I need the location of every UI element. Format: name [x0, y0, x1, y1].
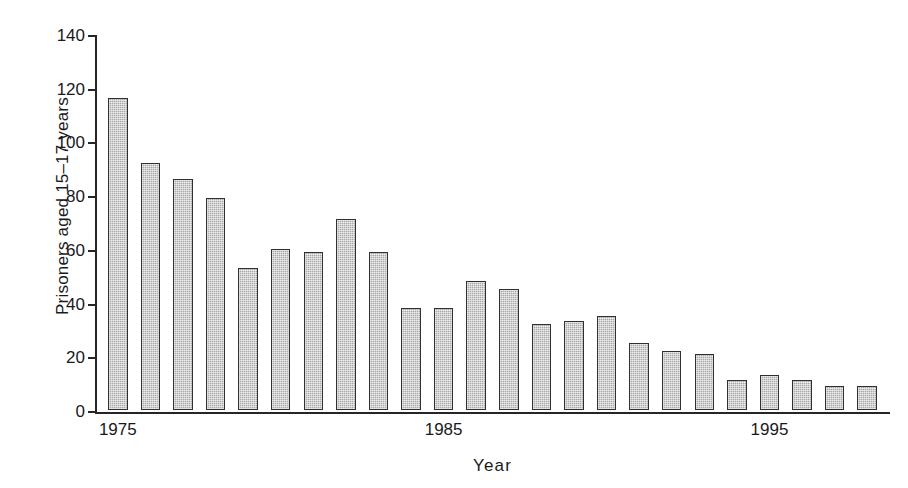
x-tick-label: 1985 [404, 420, 484, 440]
y-tick-label: 0 [25, 403, 85, 420]
x-axis-line [95, 412, 890, 414]
bar [564, 321, 584, 410]
bar [792, 380, 812, 410]
bar [760, 375, 780, 410]
bar [173, 179, 193, 410]
bar [825, 386, 845, 410]
y-tick-label: 40 [25, 296, 85, 313]
x-axis-title: Year [95, 456, 890, 476]
bar [206, 198, 226, 410]
bar [597, 316, 617, 410]
y-tick-label: 60 [25, 242, 85, 259]
y-tick-label: 120 [25, 81, 85, 98]
bar [141, 163, 161, 410]
y-tick-label: 20 [25, 349, 85, 366]
y-tick-mark [88, 35, 97, 37]
y-tick-label: 140 [25, 27, 85, 44]
y-tick-mark [88, 304, 97, 306]
bar [238, 268, 258, 410]
y-tick-label: 80 [25, 188, 85, 205]
bar [304, 252, 324, 410]
y-tick-mark [88, 357, 97, 359]
x-tick-label: 1995 [729, 420, 809, 440]
bar [369, 252, 389, 410]
y-tick-mark [88, 142, 97, 144]
y-tick-mark [88, 411, 97, 413]
bar [727, 380, 747, 410]
y-tick-mark [88, 196, 97, 198]
y-tick-mark [88, 250, 97, 252]
x-tick-label: 1975 [78, 420, 158, 440]
plot-area: 020406080100120140 197519851995 Year [95, 36, 890, 412]
bar [466, 281, 486, 410]
y-tick-mark [88, 89, 97, 91]
bar [434, 308, 454, 410]
bar [857, 386, 877, 410]
bar [336, 219, 356, 410]
bar [662, 351, 682, 410]
bar [695, 354, 715, 410]
bar [108, 98, 128, 410]
y-tick-label: 100 [25, 134, 85, 151]
bar [271, 249, 291, 410]
bar [629, 343, 649, 410]
bar [401, 308, 421, 410]
bar [499, 289, 519, 410]
bar [532, 324, 552, 410]
bar-chart-figure: Prisoners aged 15–17 years 0204060801001… [0, 0, 908, 488]
